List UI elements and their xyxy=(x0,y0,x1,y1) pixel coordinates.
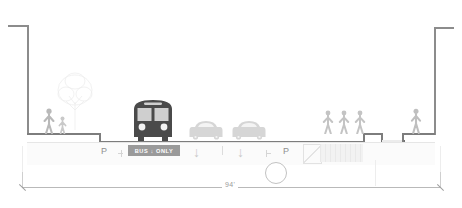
building-wall-left xyxy=(27,25,29,134)
travel-lane-arrow-1: ↓ xyxy=(193,145,200,159)
travel-lane-arrow-2: ↓ xyxy=(237,145,244,159)
parking-lane-right-tick-h xyxy=(266,153,271,154)
parking-marker-right: P xyxy=(283,146,290,156)
guide-line-mid xyxy=(375,160,376,186)
car-front-1 xyxy=(188,118,224,142)
building-wall-right xyxy=(434,27,436,135)
bus-only-lane-label: BUS ↓ ONLY xyxy=(128,145,180,156)
pedestrian-child xyxy=(58,116,67,134)
dimension-callout-bubble xyxy=(265,162,287,184)
pedestrian-far-right xyxy=(410,108,422,134)
overall-dimension-label: 94' xyxy=(222,181,238,188)
pedestrian-1 xyxy=(322,110,334,134)
pedestrian-2 xyxy=(338,110,350,134)
lane-divider xyxy=(222,146,223,155)
hatched-plaza-zone xyxy=(320,144,363,162)
building-left-top-edge xyxy=(8,25,28,27)
pedestrian-3 xyxy=(354,110,366,134)
car-front-2 xyxy=(231,118,267,142)
pedestrian-adult xyxy=(43,108,55,134)
building-right-top-edge xyxy=(434,27,454,29)
parking-marker-left: P xyxy=(101,146,108,156)
parking-lane-left-tick-h xyxy=(118,153,123,154)
street-cross-section-diagram: P BUS ↓ ONLY ↓ ↓ P xyxy=(0,0,462,208)
marking-band xyxy=(27,142,435,165)
transit-bus-front xyxy=(128,97,178,142)
